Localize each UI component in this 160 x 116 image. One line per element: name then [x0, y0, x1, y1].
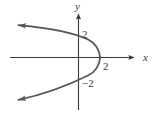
tick-label-y-negative-2: −2 [82, 77, 94, 89]
parabola-upper-branch [19, 25, 101, 57]
parabola-graph-figure: y x 2 2 −2 [0, 0, 160, 116]
tick-label-x-2: 2 [103, 60, 109, 72]
y-axis-label: y [74, 0, 80, 12]
x-axis-label: x [142, 51, 148, 63]
tick-label-y-2: 2 [82, 28, 88, 40]
graph-canvas: y x 2 2 −2 [0, 0, 160, 116]
